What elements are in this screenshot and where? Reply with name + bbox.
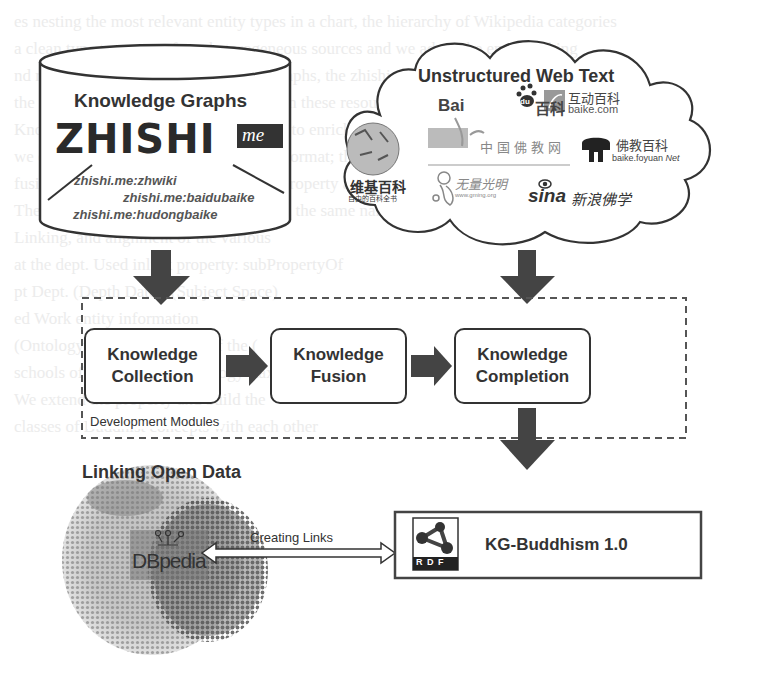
guangming-sub: www.gming.org [455,192,496,198]
knowledge-graphs-title: Knowledge Graphs [74,90,247,112]
zhishi-source: zhishi.me:hudongbaike [73,207,217,222]
baidu-du: du [520,97,530,106]
hudong-sub: baike.com [568,103,618,115]
fojiao-cn: 中国佛教网 [480,137,565,156]
creating-links-label: Creating Links [250,530,333,545]
lod-title: Linking Open Data [82,462,241,483]
baidu-logo: Bai [438,96,464,116]
zhishi-source: zhishi.me:zhwiki [74,173,177,188]
guangming-cn: 无量光明 [455,174,507,193]
arrow-completion-to-output [500,408,555,470]
wikipedia-globe-icon [347,123,399,175]
module-line2: Collection [107,366,198,388]
sina-foxue: 新浪佛学 [571,188,631,209]
knowledge-completion-box: KnowledgeCompletion [454,328,591,404]
dbpedia-label: DBpedia [132,549,206,573]
module-line1: Knowledge [107,344,198,366]
development-modules-label: Development Modules [87,414,222,429]
zhishi-me-suffix: me [242,124,264,146]
module-line2: Fusion [293,366,384,388]
arrow-fusion-to-completion [411,346,452,386]
foyuan-sub-text: baike.foyuan [612,153,663,163]
arrow-collection-to-fusion [226,346,268,386]
baidu-baike: 百科 [535,97,565,118]
module-line2: Completion [476,366,570,388]
arrow-cloud-to-completion [500,250,555,304]
module-line1: Knowledge [293,344,384,366]
zhishi-source: zhishi.me:baidubaike [123,190,254,205]
module-line1: Knowledge [476,344,570,366]
foyuan-sub: baike.foyuan Net [612,153,680,163]
foyuan-net-text: Net [666,153,680,163]
wikipedia-sub: 自由的百科全书 [348,193,397,203]
zhishi-logo: ZHISHI [55,116,216,162]
rdf-label: R D F [416,557,445,567]
kg-buddhism-title: KG-Buddhism 1.0 [485,535,628,555]
baidu-text: Bai [438,96,464,115]
knowledge-fusion-box: KnowledgeFusion [270,328,407,404]
knowledge-collection-box: KnowledgeCollection [84,328,221,404]
web-text-title: Unstructured Web Text [418,66,614,87]
arrow-kg-to-collection [133,250,190,305]
sina-logo: sina [528,185,566,207]
foyuan-cn: 佛教百科 [616,135,668,154]
